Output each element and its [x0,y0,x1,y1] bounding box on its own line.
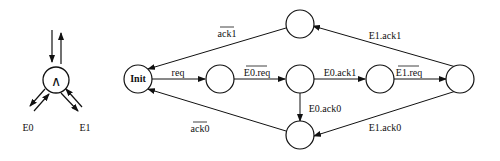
e0-out-arrow [30,89,45,106]
state-s1 [206,65,234,93]
edge-ack0 [148,89,286,131]
state-bottom [286,121,314,149]
state-s2 [286,65,314,93]
label-ack0: ack0 [191,123,210,134]
state-init-label: Init [130,73,146,84]
state-diagram: ∧ E0 E1 Init req E0.req E0.ack1 [0,0,500,161]
and-symbol: ∧ [51,74,61,89]
label-req: req [172,67,185,78]
label-e0-req-group: E0.req [244,66,270,78]
label-ack0-group: ack0 [191,122,210,134]
label-ack1-group: ack1 [218,27,237,39]
e1-in-arrow [66,89,82,107]
label-e0-ack0: E0.ack0 [309,103,342,114]
e0-label: E0 [22,122,33,133]
label-e1-ack1: E1.ack1 [369,30,402,41]
e0-in-arrow [34,94,49,111]
label-e0-req: E0.req [244,67,270,78]
e1-out-arrow [61,93,78,111]
state-s4 [446,65,474,93]
state-top [286,10,314,38]
label-e1-req: E1.req [396,67,422,78]
label-e1-req-group: E1.req [396,66,422,78]
label-ack1: ack1 [218,28,237,39]
state-s3 [366,65,394,93]
e1-label: E1 [79,122,90,133]
label-e1-ack0: E1.ack0 [369,122,402,133]
label-e0-ack1: E0.ack1 [324,67,357,78]
and-gate-symbol: ∧ E0 E1 [22,30,90,133]
